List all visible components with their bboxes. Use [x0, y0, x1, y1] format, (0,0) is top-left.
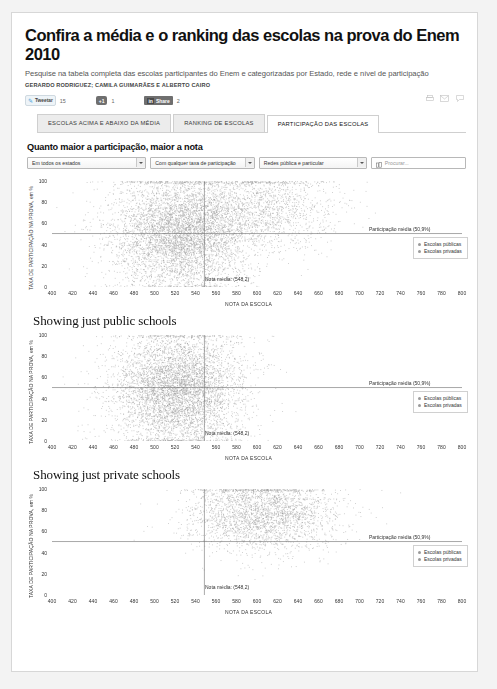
google-plus-button[interactable]: +1 [96, 96, 108, 105]
x-tick-480: 480 [125, 444, 143, 450]
legend-2: Escolas públicas Escolas privadas [413, 545, 468, 567]
search-input[interactable]: Procurar... [385, 160, 409, 166]
legend-label-public: Escolas públicas [424, 549, 461, 556]
x-tick-500: 500 [146, 290, 164, 296]
page-subtitle: Pesquise na tabela completa das escolas … [25, 69, 466, 78]
comment-icon[interactable] [455, 95, 464, 103]
x-tick-540: 540 [187, 290, 205, 296]
y-tick-100: 100 [33, 332, 47, 338]
y-tick-60: 60 [33, 374, 47, 380]
plot-area-2 [52, 489, 462, 595]
article-tools [425, 95, 464, 103]
network-filter-value: Redes pública e particular [264, 160, 324, 166]
x-tick-780: 780 [433, 290, 451, 296]
legend-marker-public [418, 397, 421, 400]
google-plus-count: 1 [111, 98, 114, 104]
x-tick-500: 500 [146, 598, 164, 604]
section-title: Quanto maior a participação, maior a not… [27, 142, 466, 152]
x-tick-540: 540 [187, 444, 205, 450]
x-tick-520: 520 [166, 598, 184, 604]
x-tick-400: 400 [43, 598, 61, 604]
print-icon[interactable] [425, 95, 434, 103]
x-tick-640: 640 [289, 290, 307, 296]
x-tick-620: 620 [269, 290, 287, 296]
y-tick-80: 80 [33, 353, 47, 359]
x-tick-740: 740 [392, 290, 410, 296]
participation-mean-label-2: Participação média (50,9%) [369, 534, 430, 540]
x-tick-660: 660 [310, 598, 328, 604]
article-card: Confira a média e o ranking das escolas … [11, 12, 478, 672]
x-tick-560: 560 [207, 290, 225, 296]
google-plus-label: +1 [99, 98, 105, 104]
linkedin-share-button[interactable]: in Share [144, 96, 172, 105]
legend-label-private: Escolas privadas [424, 402, 462, 409]
tab-escolas-acima-abaixo[interactable]: ESCOLAS ACIMA E ABAIXO DA MÉDIA [37, 114, 171, 132]
y-tick-20: 20 [33, 417, 47, 423]
x-tick-580: 580 [228, 598, 246, 604]
x-tick-640: 640 [289, 598, 307, 604]
participation-filter-value: Com qualquer taxa de participação [155, 160, 235, 166]
state-filter-value: Em todos os estados [32, 160, 80, 166]
tab-ranking-de-escolas[interactable]: RANKING DE ESCOLAS [173, 114, 265, 132]
score-mean-label-2: Nota média: (548,2) [205, 584, 249, 590]
x-tick-640: 640 [289, 444, 307, 450]
x-tick-700: 700 [351, 598, 369, 604]
legend-marker-public [418, 243, 421, 246]
chart-title-private: Showing just private schools [33, 467, 466, 483]
y-tick-80: 80 [33, 199, 47, 205]
chevron-down-icon [245, 158, 254, 167]
page-title: Confira a média e o ranking das escolas … [25, 26, 466, 64]
x-tick-720: 720 [371, 290, 389, 296]
y-tick-20: 20 [33, 571, 47, 577]
x-tick-780: 780 [433, 598, 451, 604]
x-tick-580: 580 [228, 444, 246, 450]
y-tick-100: 100 [33, 486, 47, 492]
scatter-plot-private: TAXA DE PARTICIPAÇÃO NA PROVA, em % Esco… [25, 483, 477, 619]
x-tick-600: 600 [248, 290, 266, 296]
network-filter-select[interactable]: Redes pública e particular [259, 157, 367, 169]
email-icon[interactable] [440, 95, 449, 103]
x-tick-460: 460 [105, 598, 123, 604]
x-tick-680: 680 [330, 598, 348, 604]
legend-marker-private [418, 558, 421, 561]
filter-controls: Em todos os estados Com qualquer taxa de… [27, 157, 466, 169]
participation-filter-select[interactable]: Com qualquer taxa de participação [150, 157, 254, 169]
tab-bar: ESCOLAS ACIMA E ABAIXO DA MÉDIA RANKING … [37, 115, 466, 133]
x-tick-560: 560 [207, 444, 225, 450]
x-tick-660: 660 [310, 290, 328, 296]
scatter-plot-public: TAXA DE PARTICIPAÇÃO NA PROVA, em % Esco… [25, 329, 477, 465]
chart-all-schools: TAXA DE PARTICIPAÇÃO NA PROVA, em % Esco… [25, 175, 466, 311]
x-tick-680: 680 [330, 444, 348, 450]
x-tick-680: 680 [330, 290, 348, 296]
x-tick-560: 560 [207, 598, 225, 604]
tweet-button[interactable]: ✎ Tweetar [25, 95, 56, 106]
legend-1: Escolas públicas Escolas privadas [413, 391, 468, 413]
x-tick-620: 620 [269, 444, 287, 450]
state-filter-select[interactable]: Em todos os estados [27, 157, 146, 169]
legend-marker-private [418, 404, 421, 407]
x-tick-760: 760 [412, 598, 430, 604]
legend-0: Escolas públicas Escolas privadas [413, 237, 468, 259]
x-tick-420: 420 [64, 290, 82, 296]
x-tick-400: 400 [43, 290, 61, 296]
twitter-icon: ✎ [28, 98, 34, 104]
x-tick-660: 660 [310, 444, 328, 450]
tab-participacao-das-escolas[interactable]: PARTICIPAÇÃO DAS ESCOLAS [267, 115, 380, 133]
x-tick-440: 440 [84, 290, 102, 296]
x-tick-780: 780 [433, 444, 451, 450]
search-box[interactable]: Procurar... [371, 157, 466, 169]
x-tick-540: 540 [187, 598, 205, 604]
plot-area-1 [52, 335, 462, 441]
x-tick-460: 460 [105, 290, 123, 296]
scatter-plot-all: TAXA DE PARTICIPAÇÃO NA PROVA, em % Esco… [25, 175, 477, 311]
building-icon [376, 154, 382, 172]
x-tick-760: 760 [412, 290, 430, 296]
x-tick-700: 700 [351, 290, 369, 296]
x-tick-520: 520 [166, 290, 184, 296]
legend-label-public: Escolas públicas [424, 395, 461, 402]
x-tick-800: 800 [453, 598, 471, 604]
x-tick-580: 580 [228, 290, 246, 296]
x-tick-800: 800 [453, 444, 471, 450]
x-tick-600: 600 [248, 444, 266, 450]
x-axis-label-2: NOTA DA ESCOLA [225, 609, 272, 615]
